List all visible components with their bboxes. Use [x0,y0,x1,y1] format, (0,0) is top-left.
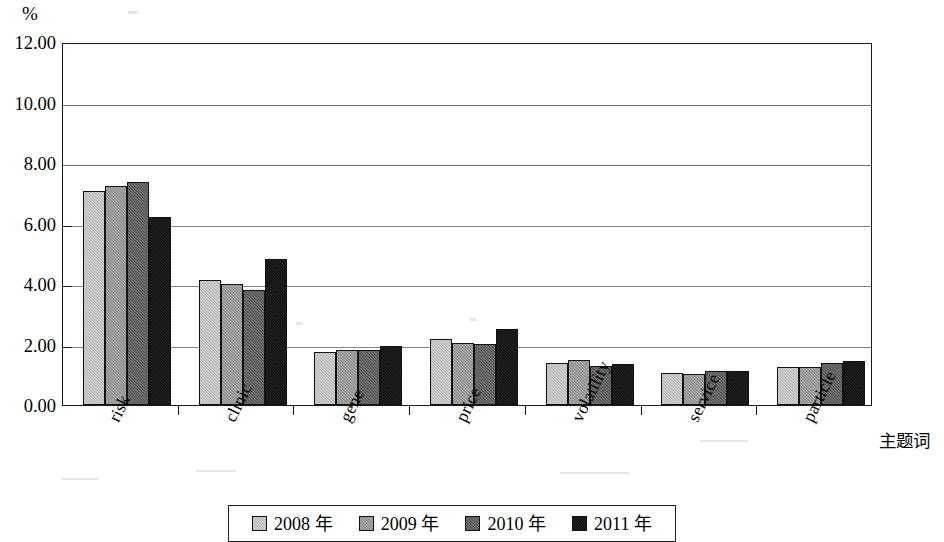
scan-artifact [470,318,476,321]
bar-service-2011年 [727,371,749,405]
legend-item-2011: 2011 年 [572,515,652,533]
legend-swatch-2011-icon [572,516,587,531]
legend-label-2009: 2009 年 [381,515,440,533]
scan-artifact [700,440,748,442]
bar-particle-2008年 [777,367,799,405]
x-axis-tick [409,406,410,415]
y-axis-tick-label: 4.00 [0,276,56,295]
bar-particle-2011年 [843,361,865,405]
x-axis-tick [178,406,179,415]
bar-clinic-2008年 [199,280,221,405]
legend-item-2010: 2010 年 [465,515,546,533]
y-axis-tick-label: 8.00 [0,155,56,174]
scan-artifact [196,470,236,472]
bar-risk-2009年 [105,186,127,405]
y-axis-tick-label: 12.00 [0,34,56,53]
scan-artifact [560,472,630,474]
bars-layer [63,44,871,405]
x-axis-tick [641,406,642,415]
legend-label-2011: 2011 年 [594,515,652,533]
x-axis-tick [525,406,526,415]
y-axis-tick-label: 6.00 [0,216,56,235]
legend-swatch-2010-icon [465,516,480,531]
scan-artifact [296,322,303,325]
x-axis-title: 主题词 [879,432,930,450]
x-axis-tick [756,406,757,415]
bar-risk-2011年 [149,217,171,405]
legend-item-2009: 2009 年 [359,515,440,533]
y-axis-tick-label: 10.00 [0,95,56,114]
chart-legend: 2008 年 2009 年 2010 年 2011 年 [228,505,676,542]
bar-service-2008年 [661,373,683,405]
legend-label-2008: 2008 年 [274,515,333,533]
legend-swatch-2009-icon [359,516,374,531]
legend-label-2010: 2010 年 [487,515,546,533]
scan-artifact [62,478,98,480]
x-axis-tick [293,406,294,415]
bar-gene-2008年 [314,352,336,405]
y-axis-unit-label: % [22,4,38,23]
bar-chart: % 0.002.004.006.008.0010.0012.00 riskcli… [0,0,944,542]
bar-volatility-2008年 [546,363,568,405]
bar-risk-2010年 [127,182,149,405]
bar-gene-2011年 [380,346,402,405]
bar-price-2011年 [496,329,518,405]
legend-swatch-2008-icon [252,516,267,531]
bar-risk-2008年 [83,191,105,405]
bar-price-2008年 [430,339,452,405]
y-axis-tick-label: 0.00 [0,397,56,416]
plot-area [62,43,872,406]
legend-item-2008: 2008 年 [252,515,333,533]
bar-volatility-2011年 [612,364,634,405]
scan-artifact [128,11,138,14]
bar-clinic-2011年 [265,259,287,405]
y-axis-tick-label: 2.00 [0,337,56,356]
y-axis-tick-labels: 0.002.004.006.008.0010.0012.00 [0,43,56,406]
